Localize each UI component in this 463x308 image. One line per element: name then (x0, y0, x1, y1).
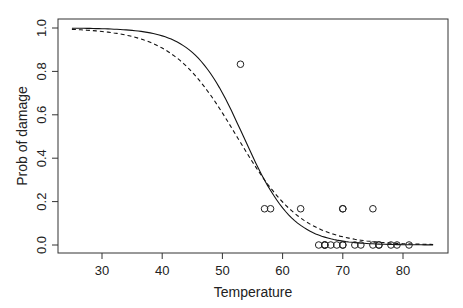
x-tick-label: 60 (275, 263, 289, 278)
x-axis: 304050607080 (95, 253, 410, 278)
data-point (340, 205, 347, 212)
y-tick-label: 0.0 (34, 236, 49, 254)
fitted-curves (72, 28, 433, 245)
x-axis-label: Temperature (214, 284, 293, 300)
data-points (237, 61, 412, 248)
x-tick-label: 80 (396, 263, 410, 278)
y-axis: 0.00.20.40.60.81.0 (34, 19, 58, 254)
dashed-fit-curve (72, 29, 433, 244)
y-tick-label: 0.8 (34, 62, 49, 80)
y-tick-label: 0.4 (34, 149, 49, 167)
y-tick-label: 0.6 (34, 106, 49, 124)
solid-fit-curve (72, 28, 433, 245)
x-tick-label: 40 (155, 263, 169, 278)
chart: 304050607080 0.00.20.40.60.81.0 Temperat… (0, 0, 463, 308)
data-point (237, 61, 244, 68)
x-tick-label: 70 (336, 263, 350, 278)
y-tick-label: 1.0 (34, 19, 49, 37)
data-point (370, 205, 377, 212)
x-tick-label: 30 (95, 263, 109, 278)
x-tick-label: 50 (215, 263, 229, 278)
plot-frame (58, 19, 448, 253)
data-point (297, 205, 304, 212)
y-axis-label: Prob of damage (14, 86, 30, 186)
y-tick-label: 0.2 (34, 193, 49, 211)
